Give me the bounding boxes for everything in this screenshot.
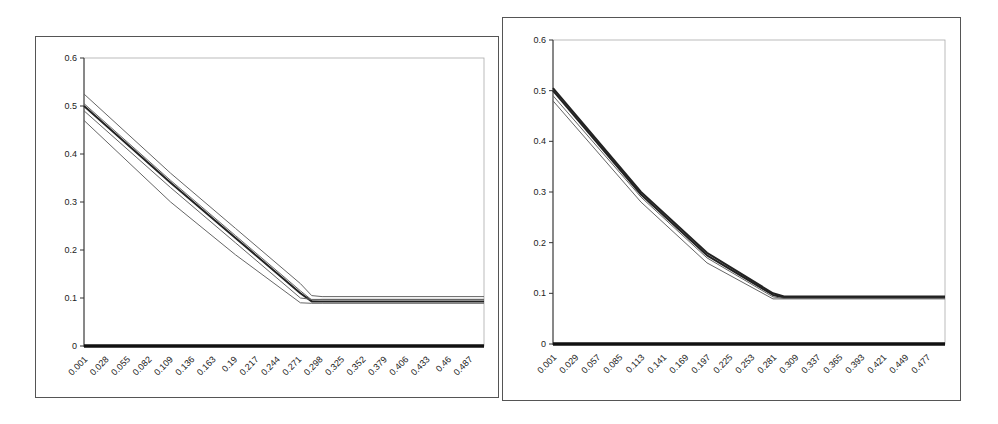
series-line	[84, 104, 484, 300]
x-tick-label: 0.449	[887, 352, 910, 375]
y-tick-label: 0	[72, 341, 77, 351]
y-tick-label: 0.1	[64, 293, 77, 303]
x-tick-label: 0.433	[409, 354, 432, 377]
y-tick-label: 0.5	[64, 101, 77, 111]
x-tick-label: 0.325	[323, 354, 346, 377]
x-tick-label: 0.055	[109, 354, 132, 377]
x-tick-label: 0.169	[667, 352, 690, 375]
right-y-ticks: 00.10.20.30.40.50.6	[533, 35, 553, 349]
left-y-ticks: 00.10.20.30.40.50.6	[64, 53, 84, 351]
series-line	[553, 101, 945, 299]
y-tick-label: 0.3	[533, 187, 546, 197]
x-tick-label: 0.001	[535, 352, 558, 375]
y-tick-label: 0.2	[64, 245, 77, 255]
charts-canvas: 00.10.20.30.40.50.6 0.0010.0280.0550.082…	[0, 0, 998, 424]
y-tick-label: 0.5	[533, 86, 546, 96]
y-tick-label: 0.4	[64, 149, 77, 159]
y-tick-label: 0.4	[533, 136, 546, 146]
x-tick-label: 0.379	[366, 354, 389, 377]
y-tick-label: 0.3	[64, 197, 77, 207]
x-tick-label: 0.46	[434, 354, 453, 373]
x-tick-label: 0.001	[66, 354, 89, 377]
series-line	[553, 91, 945, 298]
x-tick-label: 0.163	[195, 354, 218, 377]
x-tick-label: 0.109	[152, 354, 175, 377]
x-tick-label: 0.298	[302, 354, 325, 377]
right-chart: 00.10.20.30.40.50.6 0.0010.0290.0570.085…	[533, 35, 945, 375]
y-tick-label: 0.2	[533, 238, 546, 248]
x-tick-label: 0.028	[88, 354, 111, 377]
x-tick-label: 0.421	[865, 352, 888, 375]
x-tick-label: 0.365	[821, 352, 844, 375]
x-tick-label: 0.487	[452, 354, 475, 377]
left-series-lines	[84, 94, 484, 346]
left-chart: 00.10.20.30.40.50.6 0.0010.0280.0550.082…	[64, 53, 484, 377]
x-tick-label: 0.225	[711, 352, 734, 375]
x-tick-label: 0.406	[387, 354, 410, 377]
x-tick-label: 0.029	[557, 352, 580, 375]
x-tick-label: 0.085	[601, 352, 624, 375]
series-line	[84, 111, 484, 300]
y-tick-label: 0.6	[64, 53, 77, 63]
x-tick-label: 0.141	[645, 352, 668, 375]
x-tick-label: 0.337	[799, 352, 822, 375]
x-tick-label: 0.253	[733, 352, 756, 375]
x-tick-label: 0.477	[909, 352, 932, 375]
y-tick-label: 0	[541, 339, 546, 349]
series-line	[84, 106, 484, 301]
x-tick-label: 0.19	[220, 354, 239, 373]
x-tick-label: 0.309	[777, 352, 800, 375]
right-x-ticks: 0.0010.0290.0570.0850.1130.1410.1690.197…	[535, 352, 932, 375]
x-tick-label: 0.271	[280, 354, 303, 377]
x-tick-label: 0.217	[238, 354, 261, 377]
series-line	[84, 94, 484, 297]
series-line	[553, 88, 945, 296]
x-tick-label: 0.197	[689, 352, 712, 375]
series-line	[84, 120, 484, 303]
x-tick-label: 0.281	[755, 352, 778, 375]
y-tick-label: 0.1	[533, 288, 546, 298]
x-tick-label: 0.082	[131, 354, 154, 377]
x-tick-label: 0.057	[579, 352, 602, 375]
right-series-lines	[553, 88, 945, 344]
x-tick-label: 0.113	[624, 352, 647, 375]
series-line	[553, 96, 945, 299]
left-x-ticks: 0.0010.0280.0550.0820.1090.1360.1630.190…	[66, 354, 474, 377]
y-tick-label: 0.6	[533, 35, 546, 45]
x-tick-label: 0.244	[259, 354, 282, 377]
x-tick-label: 0.352	[345, 354, 368, 377]
x-tick-label: 0.136	[173, 354, 196, 377]
x-tick-label: 0.393	[843, 352, 866, 375]
